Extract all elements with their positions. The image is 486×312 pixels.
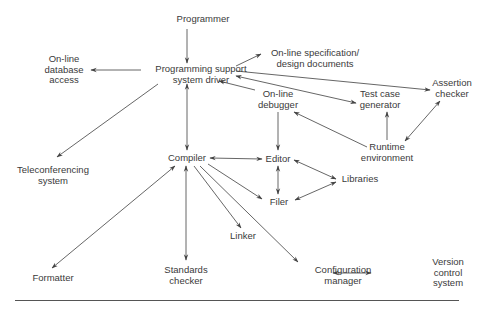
- node-spec: On-line specification/ design documents: [271, 48, 359, 69]
- node-linker: Linker: [230, 231, 256, 242]
- edge-compiler-editor: [210, 158, 262, 159]
- node-filer: Filer: [270, 197, 288, 208]
- edge-runtime-debugger: [294, 112, 367, 147]
- edge-editor-libraries: [294, 160, 336, 179]
- node-libraries: Libraries: [342, 174, 378, 185]
- node-runtime: Runtime environment: [361, 142, 413, 163]
- node-formatter: Formatter: [32, 273, 73, 284]
- edge-filer-libraries: [295, 182, 336, 200]
- node-editor: Editor: [266, 154, 291, 165]
- programming-support-diagram: ProgrammerProgramming support system dri…: [0, 0, 486, 312]
- node-compiler: Compiler: [168, 153, 206, 164]
- node-telecon: Teleconferencing system: [17, 165, 89, 186]
- edge-runtime-assert: [405, 101, 440, 141]
- node-programmer: Programmer: [177, 14, 230, 25]
- node-testgen: Test case generator: [360, 89, 401, 110]
- node-debugger: On-line debugger: [258, 89, 298, 110]
- node-db: On-line database access: [44, 54, 83, 86]
- node-standards: Standards checker: [164, 265, 207, 286]
- node-config: Configuration manager: [315, 265, 372, 286]
- node-pssd: Programming support system driver: [155, 64, 246, 85]
- node-version: Version control system: [432, 257, 464, 289]
- node-assert: Assertion checker: [432, 78, 472, 99]
- bottom-rule: [15, 300, 459, 301]
- edge-compiler-config: [200, 166, 298, 262]
- edge-pssd-telecon: [57, 84, 158, 157]
- edge-compiler-linker: [194, 166, 241, 228]
